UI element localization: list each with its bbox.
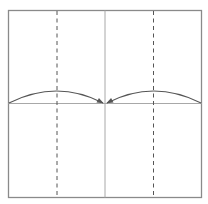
- origami-diagram: [0, 0, 208, 204]
